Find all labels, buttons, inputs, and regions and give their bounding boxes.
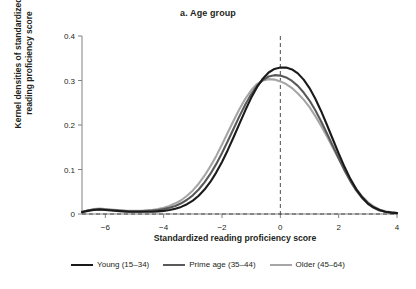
legend-swatch xyxy=(71,264,93,266)
legend-item[interactable]: Older (45–64) xyxy=(270,260,345,269)
x-axis-tick-label: 2 xyxy=(336,223,341,232)
plot-area: 00.10.20.30.4−6−4−2024 xyxy=(0,0,416,289)
x-axis-tick-label: −6 xyxy=(101,223,111,232)
series-line xyxy=(82,75,397,213)
legend-swatch xyxy=(163,264,185,266)
y-axis-tick-label: 0.2 xyxy=(64,121,76,130)
series-line xyxy=(82,68,397,214)
x-axis-tick-label: 4 xyxy=(395,223,400,232)
x-axis-tick-label: −4 xyxy=(159,223,169,232)
legend-label: Prime age (35–44) xyxy=(189,260,255,269)
y-axis-tick-label: 0 xyxy=(71,210,76,219)
chart-figure: a. Age group Kernel densities of standar… xyxy=(0,0,416,289)
legend-label: Young (15–34) xyxy=(97,260,149,269)
series-group xyxy=(82,68,397,214)
reference-lines-group xyxy=(82,36,397,218)
y-axis-tick-label: 0.4 xyxy=(64,32,76,41)
series-line xyxy=(82,79,397,213)
legend-swatch xyxy=(270,264,292,266)
y-axis-tick-label: 0.3 xyxy=(64,77,76,86)
x-axis-tick-label: −2 xyxy=(217,223,227,232)
legend-label: Older (45–64) xyxy=(296,260,345,269)
legend-item[interactable]: Prime age (35–44) xyxy=(163,260,255,269)
legend-item[interactable]: Young (15–34) xyxy=(71,260,149,269)
x-axis-tick-label: 0 xyxy=(278,223,283,232)
x-axis-title: Standardized reading proficiency score xyxy=(60,233,410,243)
y-axis-tick-label: 0.1 xyxy=(64,166,76,175)
chart-legend: Young (15–34)Prime age (35–44)Older (45–… xyxy=(0,260,416,269)
